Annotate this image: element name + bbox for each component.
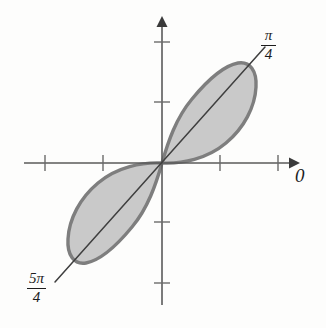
axes-group bbox=[24, 16, 300, 305]
angle-label-5pi-over-4: 5π 4 bbox=[27, 270, 46, 305]
fraction-numerator: π bbox=[263, 28, 275, 44]
fraction-denominator: 4 bbox=[263, 47, 275, 63]
angle-label-pi-over-4: π 4 bbox=[261, 27, 276, 62]
y-axis-arrow-icon bbox=[157, 16, 168, 27]
polar-plot-canvas bbox=[0, 0, 326, 328]
theta-ray-line bbox=[55, 47, 265, 282]
upper-petal-shape bbox=[162, 63, 256, 163]
fraction-5pi-over-4: 5π 4 bbox=[27, 271, 46, 305]
origin-label: 0 bbox=[295, 166, 305, 185]
fraction-pi-over-4: π 4 bbox=[261, 28, 276, 62]
fraction-numerator: 5π bbox=[27, 271, 46, 287]
polar-plot-figure: π 4 5π 4 0 bbox=[0, 0, 326, 328]
fraction-denominator: 4 bbox=[31, 290, 43, 306]
